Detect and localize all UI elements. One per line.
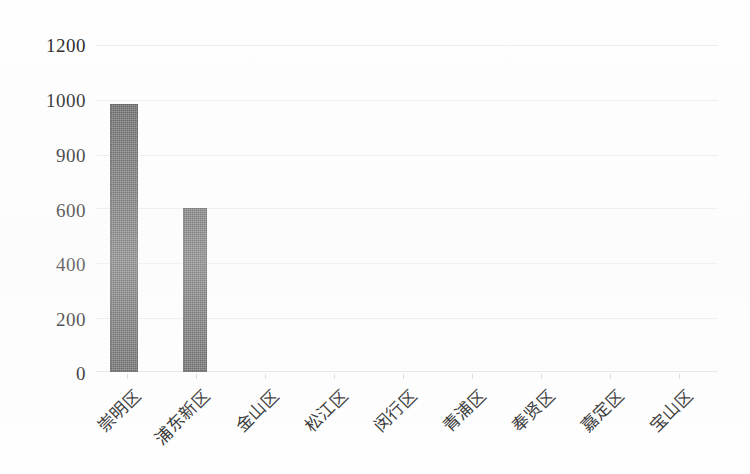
y-tick-label: 400 bbox=[30, 255, 86, 274]
gridline-1200 bbox=[96, 45, 718, 46]
x-tick-label: 奉贤区 bbox=[505, 382, 560, 437]
y-tick-label: 900 bbox=[30, 146, 86, 165]
x-tick-label: 闵行区 bbox=[367, 382, 422, 437]
x-tick-label: 嘉定区 bbox=[574, 382, 629, 437]
gridline-900 bbox=[96, 155, 718, 156]
y-tick-label: 1200 bbox=[30, 36, 86, 55]
x-tick-mark bbox=[541, 374, 542, 379]
y-tick-label: 1000 bbox=[30, 91, 86, 110]
x-tick-mark bbox=[334, 374, 335, 379]
y-tick-label: 0 bbox=[30, 364, 86, 383]
x-tick-label: 浦东新区 bbox=[148, 382, 215, 449]
y-tick-label: 200 bbox=[30, 310, 86, 329]
x-tick-mark bbox=[610, 374, 611, 379]
bar-chongming bbox=[110, 104, 138, 372]
x-axis-tick-labels: 崇明区 浦东新区 金山区 松江区 闵行区 青浦区 奉贤区 嘉定区 bbox=[96, 374, 718, 474]
x-tick-mark bbox=[679, 374, 680, 379]
x-tick-label: 青浦区 bbox=[436, 382, 491, 437]
x-tick-mark bbox=[403, 374, 404, 379]
x-tick-mark bbox=[472, 374, 473, 379]
bar-pudong-new bbox=[183, 208, 207, 372]
bar-chart-figure: 1200 1000 900 600 400 200 0 崇明区 浦东新区 金山区 bbox=[0, 0, 750, 474]
plot-area bbox=[96, 45, 718, 372]
x-tick-mark bbox=[265, 374, 266, 379]
x-tick-label: 松江区 bbox=[298, 382, 353, 437]
y-tick-label: 600 bbox=[30, 201, 86, 220]
gridline-1000 bbox=[96, 100, 718, 101]
x-tick-label: 宝山区 bbox=[643, 382, 698, 437]
x-tick-label: 崇明区 bbox=[91, 382, 146, 437]
x-tick-mark bbox=[127, 374, 128, 379]
x-tick-mark bbox=[196, 374, 197, 379]
x-tick-label: 金山区 bbox=[229, 382, 284, 437]
